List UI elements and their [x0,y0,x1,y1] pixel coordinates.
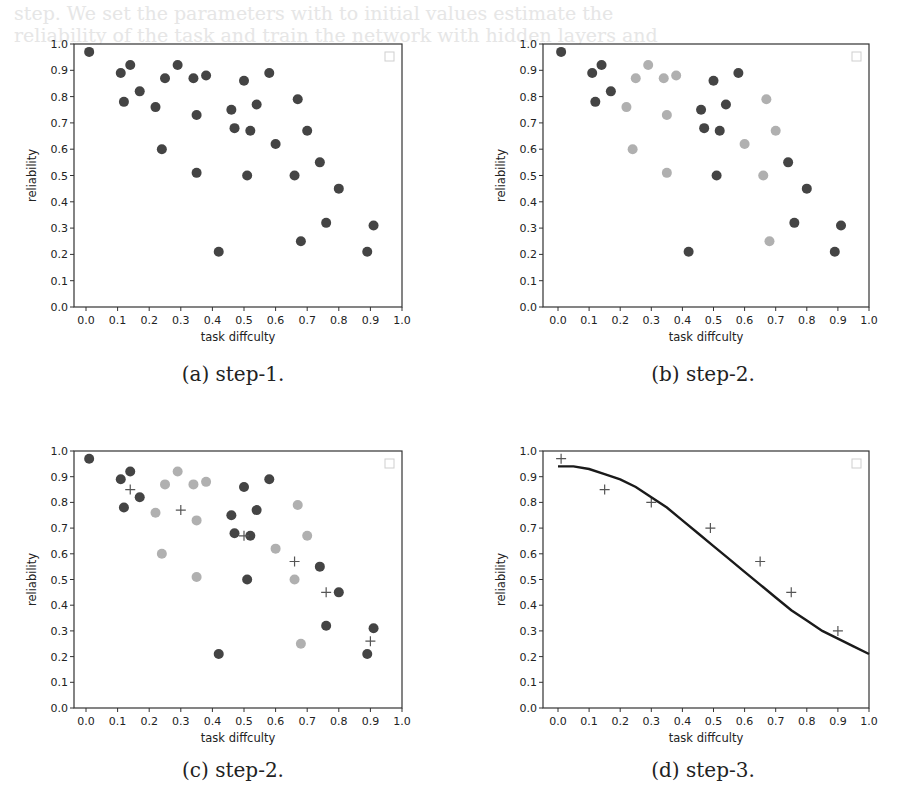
data-point [151,102,161,112]
y-tick-label: 0.1 [520,676,538,689]
data-point [125,60,135,70]
data-point [362,247,372,257]
plot-b: 0.00.10.20.30.40.50.60.70.80.91.00.00.10… [494,38,878,344]
x-axis-label: task diffculty [669,330,744,344]
data-point [321,218,331,228]
data-point [290,171,300,181]
y-tick-label: 0.6 [520,548,538,561]
y-tick-label: 1.0 [520,445,538,458]
y-tick-label: 0.0 [520,702,538,715]
legend-box [852,459,861,468]
x-tick-label: 0.6 [736,314,754,327]
data-point [740,139,750,149]
legend-box [385,459,394,468]
x-tick-label: 0.0 [77,314,95,327]
data-point [188,479,198,489]
y-tick-label: 0.0 [520,301,538,314]
x-axis-label: task diffculty [201,731,276,745]
y-tick-label: 0.8 [520,91,538,104]
data-point [201,477,211,487]
data-point [302,531,312,541]
y-tick-label: 0.3 [51,625,69,638]
data-point [151,508,161,518]
data-point [252,99,262,109]
y-tick-label: 0.9 [51,471,69,484]
data-point [709,76,719,86]
data-point [296,236,306,246]
y-tick-label: 0.4 [51,196,69,209]
x-tick-label: 0.5 [705,715,723,728]
plot-c: 0.00.10.20.30.40.50.60.70.80.91.00.00.10… [25,445,411,745]
y-axis-label: reliability [494,149,508,202]
data-point [173,60,183,70]
x-tick-label: 0.4 [204,314,222,327]
data-point [334,587,344,597]
y-tick-label: 0.6 [51,548,69,561]
x-tick-label: 0.3 [172,314,190,327]
y-tick-label: 0.5 [520,170,538,183]
x-tick-label: 0.2 [611,314,629,327]
data-point [135,86,145,96]
data-point [119,97,129,107]
data-point [239,76,249,86]
data-point [643,60,653,70]
data-point [606,86,616,96]
data-point [315,157,325,167]
plot-area [74,451,402,708]
data-point [242,171,252,181]
plot-area [543,451,869,708]
data-point [188,73,198,83]
caption-a: (a) step-1. [182,362,285,386]
x-tick-label: 0.6 [267,715,285,728]
data-point [293,500,303,510]
data-point [715,126,725,136]
data-point [758,171,768,181]
data-point [245,126,255,136]
data-point [321,621,331,631]
x-tick-label: 0.0 [549,715,567,728]
x-tick-label: 0.8 [798,314,816,327]
x-tick-label: 0.0 [77,715,95,728]
x-tick-label: 0.1 [580,715,598,728]
data-point [802,184,812,194]
x-tick-label: 1.0 [860,715,878,728]
data-point [696,105,706,115]
x-tick-label: 1.0 [393,314,411,327]
data-point [771,126,781,136]
data-point [271,544,281,554]
data-point [157,549,167,559]
y-tick-label: 0.6 [520,143,538,156]
y-tick-label: 0.7 [51,117,69,130]
data-point [684,247,694,257]
y-tick-label: 0.2 [520,651,538,664]
x-tick-label: 0.5 [235,314,253,327]
x-tick-label: 1.0 [860,314,878,327]
data-point [252,505,262,515]
caption-d: (d) step-3. [651,758,755,782]
x-tick-label: 0.5 [235,715,253,728]
x-tick-label: 0.1 [580,314,598,327]
data-point [160,73,170,83]
data-point [597,60,607,70]
data-point [659,73,669,83]
data-point [230,123,240,133]
data-point [662,110,672,120]
x-tick-label: 0.2 [611,715,629,728]
data-point [721,99,731,109]
y-axis-label: reliability [494,553,508,606]
data-point [84,47,94,57]
y-tick-label: 0.2 [51,248,69,261]
legend-box [852,52,861,61]
x-tick-label: 0.8 [330,314,348,327]
data-point [662,168,672,178]
x-tick-label: 0.4 [674,715,692,728]
data-point [192,168,202,178]
y-tick-label: 0.4 [520,599,538,612]
x-tick-label: 0.4 [204,715,222,728]
y-tick-label: 0.8 [51,496,69,509]
y-tick-label: 0.1 [51,275,69,288]
data-point [226,105,236,115]
data-point [160,479,170,489]
data-point [290,575,300,585]
y-tick-label: 0.2 [51,651,69,664]
